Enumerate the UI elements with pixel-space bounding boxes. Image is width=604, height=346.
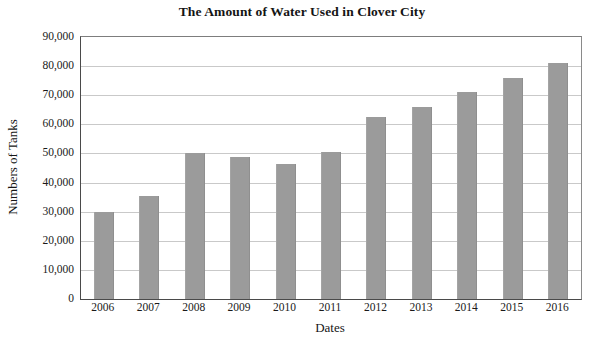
y-axis-tick-label: 20,000 bbox=[42, 234, 74, 246]
y-axis-tick-label: 10,000 bbox=[42, 263, 74, 275]
x-axis-tick-label: 2014 bbox=[455, 301, 478, 313]
bar bbox=[230, 157, 250, 299]
bar-chart: The Amount of Water Used in Clover City … bbox=[0, 0, 604, 346]
y-axis-tick-label: 70,000 bbox=[42, 88, 74, 100]
x-axis-tick-label: 2011 bbox=[319, 301, 342, 313]
bar bbox=[503, 78, 523, 299]
x-axis-tick-label: 2012 bbox=[364, 301, 387, 313]
x-axis-tick-label: 2016 bbox=[546, 301, 569, 313]
x-axis-tick-label: 2010 bbox=[273, 301, 296, 313]
bar bbox=[548, 63, 568, 299]
bar-series bbox=[81, 37, 581, 299]
bar bbox=[94, 212, 114, 299]
plot-area bbox=[80, 36, 582, 300]
bar bbox=[457, 92, 477, 299]
y-axis-tick-label: 0 bbox=[68, 292, 74, 304]
bar bbox=[412, 107, 432, 299]
x-axis-tick-label: 2013 bbox=[409, 301, 432, 313]
y-axis-tick-label: 50,000 bbox=[42, 146, 74, 158]
chart-title: The Amount of Water Used in Clover City bbox=[0, 4, 604, 20]
x-axis-tick-label: 2007 bbox=[137, 301, 160, 313]
x-axis-tick-labels: 2006200720082009201020112012201320142015… bbox=[80, 301, 580, 319]
y-axis-tick-labels: 010,00020,00030,00040,00050,00060,00070,… bbox=[20, 36, 78, 298]
y-axis-tick-label: 30,000 bbox=[42, 205, 74, 217]
x-axis-tick-label: 2008 bbox=[182, 301, 205, 313]
bar bbox=[185, 153, 205, 299]
x-axis-title: Dates bbox=[80, 320, 580, 336]
bar bbox=[321, 152, 341, 299]
x-axis-tick-label: 2015 bbox=[500, 301, 523, 313]
bar bbox=[139, 196, 159, 299]
x-axis-tick-label: 2009 bbox=[228, 301, 251, 313]
y-axis-tick-label: 60,000 bbox=[42, 117, 74, 129]
bar bbox=[366, 117, 386, 299]
y-axis-tick-label: 40,000 bbox=[42, 176, 74, 188]
bar bbox=[276, 164, 296, 299]
x-axis-tick-label: 2006 bbox=[91, 301, 114, 313]
y-axis-title: Numbers of Tanks bbox=[5, 119, 21, 215]
y-axis-tick-label: 90,000 bbox=[42, 30, 74, 42]
y-axis-tick-label: 80,000 bbox=[42, 59, 74, 71]
